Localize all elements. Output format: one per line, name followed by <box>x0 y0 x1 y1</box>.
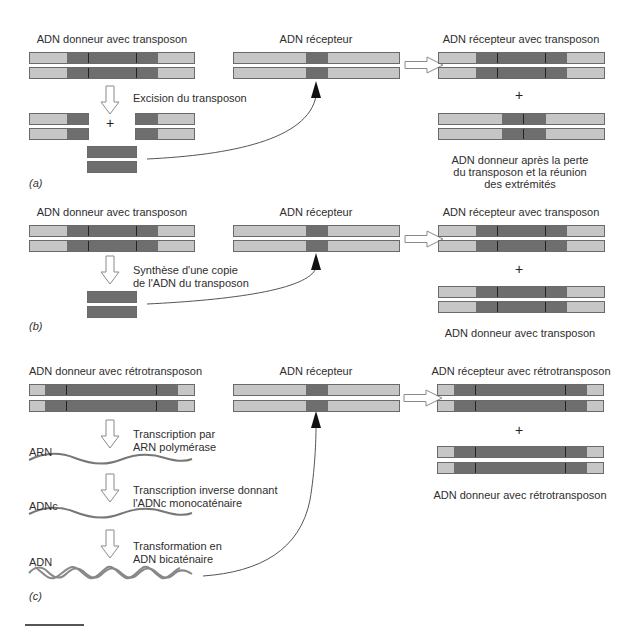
step-label: Transcription par <box>133 428 215 441</box>
rna-label: ARN <box>29 446 52 459</box>
donor-label: ADN donneur avec transposon <box>29 206 195 219</box>
transposon-fragment <box>87 146 137 158</box>
receptor-dna-strand <box>233 52 400 64</box>
step-label: Transcription inverse donnant <box>133 484 278 497</box>
cdna-label: ADNc <box>29 500 58 513</box>
plus-sign: + <box>515 261 523 277</box>
donor-fragment <box>29 113 89 125</box>
result-dna-strand <box>438 52 605 64</box>
result-dna-strand <box>438 240 605 252</box>
step-label: Transformation en <box>133 540 222 553</box>
transposon-fragment <box>87 161 137 173</box>
plus-sign: + <box>515 87 523 103</box>
panel-tag-a: (a) <box>29 177 42 189</box>
dna-helix-strand-2 <box>35 567 180 579</box>
step-label: de l'ADN du transposon <box>133 277 249 290</box>
down-arrow-icon <box>101 256 119 284</box>
rna-strand <box>29 454 192 464</box>
insertion-arrowhead-icon <box>311 253 321 270</box>
donor-dna-strand <box>29 400 195 412</box>
panel-tag-c: (c) <box>29 590 42 602</box>
result-dna-strand <box>437 384 604 396</box>
donor-dna-strand <box>29 67 195 79</box>
receptor-label: ADN récepteur <box>233 365 399 378</box>
result-label: ADN récepteur avec transposon <box>438 206 604 219</box>
donor-fragment <box>29 128 89 140</box>
donor-after-strand <box>438 113 605 125</box>
down-arrow-icon <box>101 530 119 558</box>
receptor-label: ADN récepteur <box>233 206 399 219</box>
transposon-copy <box>87 306 137 318</box>
step-label: Excision du transposon <box>133 92 247 105</box>
result-label: ADN récepteur avec transposon <box>438 33 604 46</box>
receptor-dna-strand <box>233 240 400 252</box>
insertion-arrowhead-icon <box>311 411 321 428</box>
panel-tag-b: (b) <box>29 320 42 332</box>
donor-dna-strand <box>29 240 195 252</box>
receptor-dna-strand <box>233 225 400 237</box>
donor-after-strand <box>438 286 605 298</box>
receptor-dna-strand <box>233 384 400 396</box>
plus-sign: + <box>106 115 114 131</box>
donor-after-strand <box>438 128 605 140</box>
donor-label: ADN donneur avec transposon <box>29 33 195 46</box>
down-arrow-icon <box>101 86 119 114</box>
plus-sign: + <box>515 422 523 438</box>
donor-dna-strand <box>29 225 195 237</box>
result-label: ADN récepteur avec rétrotransposon <box>428 365 614 378</box>
donor-after-label: des extrémités <box>420 178 620 191</box>
transposon-copy <box>87 291 137 303</box>
down-arrow-icon <box>101 474 119 502</box>
result-dna-strand <box>437 400 604 412</box>
receptor-dna-strand <box>233 400 400 412</box>
donor-after-label: ADN donneur avec rétrotransposon <box>420 489 620 502</box>
receptor-label: ADN récepteur <box>233 33 399 46</box>
step-label: l'ADNc monocaténaire <box>133 497 242 510</box>
donor-fragment <box>135 113 195 125</box>
donor-dna-strand <box>29 384 195 396</box>
down-arrow-icon <box>101 420 119 448</box>
donor-after-strand <box>438 301 605 313</box>
dna-label: ADN <box>29 556 52 569</box>
donor-after-label: ADN donneur avec transposon <box>420 327 620 340</box>
donor-fragment <box>135 128 195 140</box>
donor-label: ADN donneur avec rétrotransposon <box>29 365 202 378</box>
step-label: Synthèse d'une copie <box>133 264 238 277</box>
step-label: ARN polymérase <box>133 441 216 454</box>
step-label: ADN bicaténaire <box>133 553 213 566</box>
receptor-dna-strand <box>233 67 400 79</box>
insertion-arrowhead-icon <box>311 81 321 98</box>
result-dna-strand <box>438 67 605 79</box>
donor-dna-strand <box>29 52 195 64</box>
donor-after-strand <box>437 462 604 474</box>
result-dna-strand <box>438 225 605 237</box>
donor-after-strand <box>437 446 604 458</box>
